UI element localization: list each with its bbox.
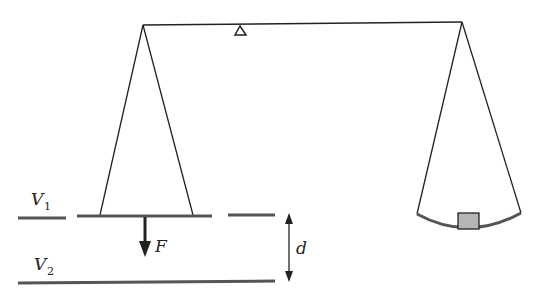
label-v1: V [31,189,45,209]
distance-arrow-head-bottom [285,271,293,282]
label-v2-subscript: 2 [47,265,54,278]
pivot-triangle [235,26,246,35]
right-string-a [417,22,462,214]
balance-beam [143,22,462,25]
label-v2: V [34,254,48,274]
force-arrow-head [139,241,151,257]
mass-block [458,213,479,229]
label-distance: d [296,238,307,258]
right-string-b [462,22,521,213]
lower-plate [18,281,275,283]
balance-diagram: V 1 V 2 F d [0,0,544,288]
label-v1-subscript: 1 [44,200,51,213]
distance-arrow-head-top [285,213,293,224]
left-string-b [143,25,193,215]
label-force: F [154,236,168,256]
left-string-a [100,25,143,215]
